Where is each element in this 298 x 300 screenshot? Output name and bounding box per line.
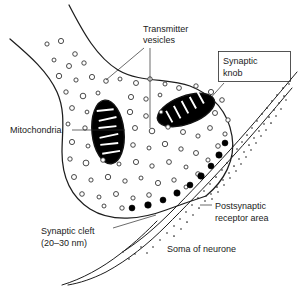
postsynaptic-receptor-label-line2: receptor area bbox=[215, 213, 269, 223]
synaptic-cleft-label-line2: (20–30 nm) bbox=[41, 238, 87, 248]
synaptic-knob-diagram: Synaptic knob bbox=[0, 0, 298, 300]
postsynaptic-receptor-label-line1: Postsynaptic bbox=[215, 201, 267, 211]
synaptic-knob-label-line2: knob bbox=[223, 68, 243, 78]
synaptic-cleft-label-line1: Synaptic cleft bbox=[41, 226, 95, 236]
mitochondria-label-text: Mitochondria bbox=[10, 125, 62, 135]
soma-label-text: Soma of neurone bbox=[167, 244, 236, 254]
synaptic-knob-label-line1: Synaptic bbox=[223, 56, 258, 66]
transmitter-vesicles-label-line2: vesicles bbox=[143, 35, 176, 45]
transmitter-vesicles-label-line1: Transmitter bbox=[143, 24, 188, 34]
